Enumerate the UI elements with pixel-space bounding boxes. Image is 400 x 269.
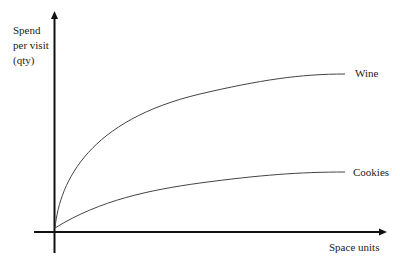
wine-curve	[55, 74, 345, 228]
wine-label: Wine	[355, 66, 378, 81]
diagram-canvas	[0, 0, 400, 269]
y-axis-arrow-icon	[51, 11, 58, 19]
x-axis-label: Space units	[329, 240, 379, 255]
cookies-label: Cookies	[353, 165, 389, 180]
y-axis-label-line1: Spend	[13, 23, 49, 38]
cookies-curve	[55, 172, 345, 228]
x-axis-arrow-icon	[379, 229, 387, 236]
y-axis-label: Spend per visit (qty)	[13, 23, 49, 68]
y-axis-label-line2: per visit	[13, 38, 49, 53]
y-axis-label-line3: (qty)	[13, 53, 49, 68]
